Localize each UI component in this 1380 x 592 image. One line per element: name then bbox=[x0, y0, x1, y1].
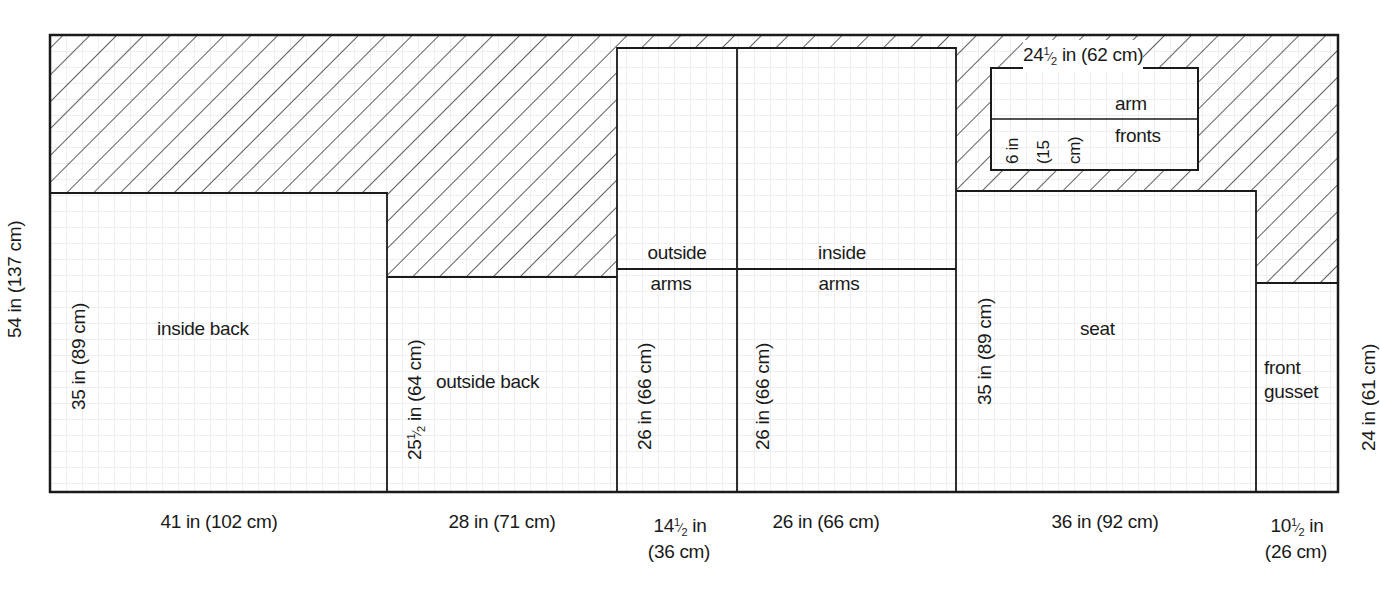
fraction-half: 1⁄2 bbox=[674, 521, 687, 535]
fraction-half: 1⁄2 bbox=[1291, 521, 1304, 535]
fraction-half: 1⁄2 bbox=[1044, 50, 1057, 64]
cutting-layout-diagram bbox=[0, 0, 1380, 592]
arm-fronts-width-label: 241⁄2 in (62 cm) bbox=[1023, 40, 1143, 72]
front-gusset-width-label: 101⁄2 in bbox=[1270, 511, 1323, 543]
front-gusset-width-cm-label: (26 cm) bbox=[1265, 541, 1327, 563]
seat-label: seat bbox=[1080, 318, 1115, 340]
front-gusset-label-line2: gusset bbox=[1264, 381, 1318, 403]
front-gusset-label-line1: front bbox=[1264, 357, 1301, 379]
arm-fronts-height-label-1: 6 in bbox=[1002, 138, 1024, 164]
fraction-half: 1⁄2 bbox=[410, 426, 424, 439]
arm-fronts-label-line2: fronts bbox=[1115, 125, 1161, 147]
arm-fronts-height-label-2: (15 bbox=[1033, 140, 1055, 164]
outside-arms-label-line1: outside bbox=[647, 242, 706, 264]
arm-fronts-label-line1: arm bbox=[1115, 93, 1147, 115]
front-gusset-height-label: 24 in (61 cm) bbox=[1358, 344, 1380, 451]
arm-fronts-height-label-3: cm) bbox=[1064, 137, 1086, 164]
inside-arms-label-line2: arms bbox=[818, 273, 859, 295]
outside-back-height-label: 251⁄2 in (64 cm) bbox=[400, 340, 432, 460]
outside-arms-width-cm-label: (36 cm) bbox=[648, 541, 710, 563]
outside-back-height-rest: in (64 cm) bbox=[404, 340, 425, 421]
outside-arms-height-label: 26 in (66 cm) bbox=[634, 343, 656, 450]
outside-back-width-label: 28 in (71 cm) bbox=[449, 511, 556, 533]
outside-back-height-whole: 25 bbox=[404, 439, 425, 460]
outside-back-label: outside back bbox=[436, 371, 539, 393]
overall-height-label: 54 in (137 cm) bbox=[4, 221, 26, 338]
inside-arms-width-label: 26 in (66 cm) bbox=[773, 511, 880, 533]
inside-back-width-label: 41 in (102 cm) bbox=[160, 511, 277, 533]
seat-height-label: 35 in (89 cm) bbox=[974, 298, 996, 405]
outside-arms-width-label: 141⁄2 in bbox=[653, 511, 706, 543]
seat-width-label: 36 in (92 cm) bbox=[1052, 511, 1159, 533]
inside-back-label: inside back bbox=[157, 318, 249, 340]
inside-arms-height-label: 26 in (66 cm) bbox=[752, 343, 774, 450]
outside-arms-label-line2: arms bbox=[650, 273, 691, 295]
inside-arms-label-line1: inside bbox=[818, 242, 866, 264]
inside-back-height-label: 35 in (89 cm) bbox=[68, 303, 90, 410]
